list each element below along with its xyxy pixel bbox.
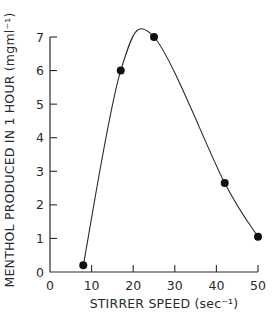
y-tick-label: 6 [36, 63, 44, 78]
y-tick-label: 4 [36, 130, 44, 145]
x-tick-label: 0 [46, 278, 54, 293]
data-point [221, 179, 229, 187]
x-tick-label: 20 [125, 278, 141, 293]
data-curve [83, 29, 258, 265]
data-point [254, 233, 262, 241]
y-tick-label: 2 [36, 197, 44, 212]
axes-frame [50, 37, 258, 272]
data-point [79, 261, 87, 269]
line-chart: 01234567 01020304050 MENTHOL PRODUCED IN… [0, 0, 278, 326]
y-tick-label: 0 [36, 265, 44, 280]
data-points [79, 33, 262, 269]
y-tick-label: 1 [36, 231, 44, 246]
x-tick-label: 40 [208, 278, 224, 293]
y-tick-label: 7 [36, 30, 44, 45]
y-tick-label: 3 [36, 164, 44, 179]
x-ticks: 01020304050 [46, 265, 266, 293]
y-axis-title: MENTHOL PRODUCED IN 1 HOUR (mgml⁻¹) [2, 12, 17, 287]
data-point [117, 67, 125, 75]
y-tick-label: 5 [36, 97, 44, 112]
y-ticks: 01234567 [36, 30, 57, 280]
x-tick-label: 10 [84, 278, 100, 293]
x-axis-title: STIRRER SPEED (sec⁻¹) [90, 296, 239, 311]
x-tick-label: 50 [250, 278, 266, 293]
axes: 01234567 01020304050 [36, 30, 266, 294]
x-tick-label: 30 [167, 278, 183, 293]
data-point [150, 33, 158, 41]
